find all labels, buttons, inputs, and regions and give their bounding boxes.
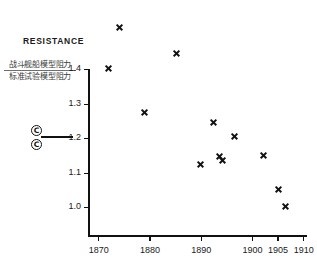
data-point-marker — [275, 186, 282, 193]
y-tick: 1.4 — [84, 69, 88, 70]
data-point-marker — [210, 119, 217, 126]
y-tick: 1.3 — [84, 104, 88, 105]
x-tick-label: 1900 — [242, 245, 262, 255]
data-point-marker — [105, 65, 112, 72]
x-tick-label: 1905 — [268, 245, 288, 255]
y-tick-label: 1.2 — [68, 132, 81, 142]
x-tick: 1880 — [149, 237, 150, 241]
y-axis-label-denominator: 标准试验模型阻力 — [4, 72, 76, 81]
x-tick-label: 1910 — [294, 245, 314, 255]
data-point-marker — [282, 203, 289, 210]
y-tick-label: 1.0 — [68, 201, 81, 211]
x-tick: 1870 — [98, 237, 99, 241]
x-tick-label: 1890 — [191, 245, 211, 255]
x-tick-label: 1880 — [140, 245, 160, 255]
x-tick-label: 1870 — [89, 245, 109, 255]
chart-title: RESISTANCE — [23, 36, 84, 46]
y-tick: 1.0 — [84, 207, 88, 208]
y-tick-label: 1.4 — [68, 63, 81, 73]
data-point-marker — [141, 109, 148, 116]
annotation-circled-marks: C C — [31, 125, 91, 151]
x-tick: 1910 — [303, 237, 304, 241]
y-axis-spine — [88, 69, 90, 237]
data-point-marker — [231, 133, 238, 140]
circled-c-icon-top: C — [31, 125, 42, 136]
plot-area: 1.41.31.21.11.0 187018801890190019051910 — [88, 60, 307, 237]
y-axis-label-fraction: 战斗舰船模型阻力 标准试验模型阻力 — [4, 60, 76, 81]
y-tick-label: 1.3 — [68, 98, 81, 108]
x-tick: 1905 — [277, 237, 278, 241]
data-point-marker — [173, 50, 180, 57]
x-tick: 1890 — [201, 237, 202, 241]
y-tick: 1.2 — [84, 138, 88, 139]
x-axis-spine — [88, 235, 307, 237]
data-point-marker — [116, 24, 123, 31]
x-tick: 1900 — [252, 237, 253, 241]
chart-figure: RESISTANCE 战斗舰船模型阻力 标准试验模型阻力 C C 1.41.31… — [0, 0, 317, 258]
data-point-marker — [260, 152, 267, 159]
y-tick: 1.1 — [84, 173, 88, 174]
data-point-marker — [219, 157, 226, 164]
y-tick-label: 1.1 — [68, 167, 81, 177]
data-point-marker — [197, 161, 204, 168]
y-axis-label-numerator: 战斗舰船模型阻力 — [4, 60, 76, 69]
circled-c-icon-bottom: C — [31, 139, 42, 150]
